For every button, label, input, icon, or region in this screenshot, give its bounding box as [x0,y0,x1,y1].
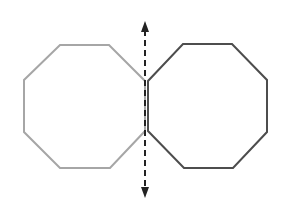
arrow-up-icon [141,21,149,32]
arrow-down-icon [141,187,149,198]
reflection-diagram [0,0,287,212]
right-octagon [148,44,267,168]
left-octagon [24,45,145,168]
